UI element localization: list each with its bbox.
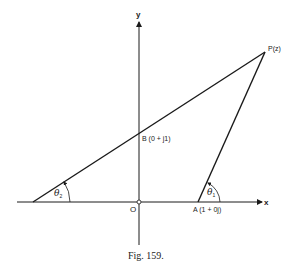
point-p-label: P(z) bbox=[268, 45, 281, 53]
point-a-label: A (1 + 0j) bbox=[193, 206, 221, 214]
line-a-to-p bbox=[198, 52, 265, 202]
theta2-label: θ2 bbox=[54, 188, 62, 199]
x-axis-label: x bbox=[264, 198, 269, 207]
figure-caption: Fig. 159. bbox=[128, 250, 164, 261]
diagram-figure: y x O P(z) B (0 + j1) A (1 + 0j) θ2 θ1 F… bbox=[0, 0, 295, 270]
origin-label: O bbox=[130, 205, 136, 214]
point-b-label: B (0 + j1) bbox=[142, 135, 171, 143]
theta2-arc bbox=[64, 182, 70, 202]
y-axis-label: y bbox=[136, 10, 141, 19]
origin-point bbox=[137, 200, 141, 204]
theta1-label: θ1 bbox=[207, 187, 215, 198]
line-through-b-to-p bbox=[33, 52, 265, 202]
